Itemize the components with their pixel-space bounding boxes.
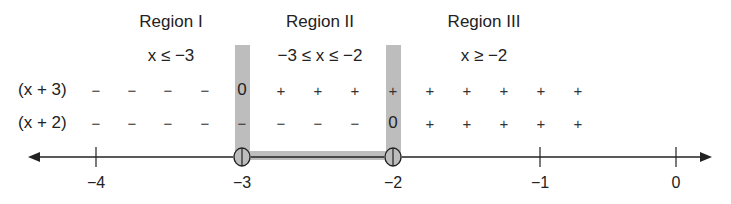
tick-label: −3	[233, 174, 251, 192]
right-arrow-icon	[700, 152, 712, 162]
number-line	[0, 0, 731, 204]
tick-label: 0	[672, 174, 681, 192]
critical-point-minus-2-icon	[384, 148, 402, 166]
tick-label: −2	[384, 174, 402, 192]
left-arrow-icon	[28, 152, 40, 162]
tick-label: −4	[87, 174, 105, 192]
critical-point-minus-3-icon	[233, 148, 251, 166]
tick-label: −1	[531, 174, 549, 192]
